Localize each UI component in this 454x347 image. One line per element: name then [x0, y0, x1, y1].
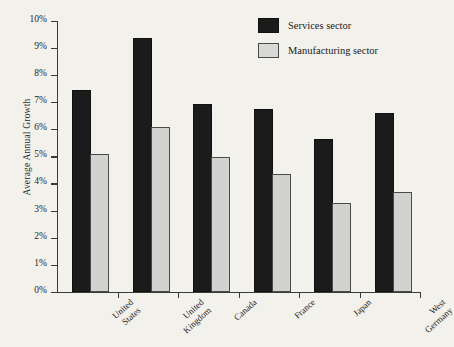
- y-axis-tick: 5%: [51, 156, 58, 157]
- y-axis-tick: 8%: [51, 75, 58, 76]
- bar-manufacturing: [393, 192, 412, 292]
- y-axis-tick: 10%: [51, 21, 58, 22]
- chart-legend: Services sectorManufacturing sector: [258, 18, 378, 68]
- y-axis-tick-label: 5%: [34, 149, 47, 159]
- y-axis-tick: 7%: [51, 102, 58, 103]
- bar-services: [375, 113, 394, 291]
- x-axis-category-label: France: [292, 297, 317, 321]
- y-axis-tick-label: 7%: [34, 95, 47, 105]
- y-axis-tick: 6%: [51, 129, 58, 130]
- bar-group: [72, 21, 108, 292]
- bar-services: [193, 104, 212, 292]
- x-axis-tick: [299, 292, 300, 298]
- y-axis-tick-label: 6%: [34, 122, 47, 132]
- x-axis-category-label: Canada: [232, 297, 259, 323]
- y-axis-tick: 9%: [51, 48, 58, 49]
- y-axis-tick-label: 3%: [34, 204, 47, 214]
- x-axis-tick: [239, 292, 240, 298]
- y-axis-tick: 2%: [51, 238, 58, 239]
- x-axis-tick: [118, 292, 119, 298]
- y-axis-tick-label: 2%: [34, 231, 47, 241]
- y-axis-tick-label: 1%: [34, 258, 47, 268]
- category-label-line: Japan: [352, 297, 374, 319]
- legend-swatch-manufacturing: [258, 43, 279, 58]
- y-axis-tick: 1%: [51, 265, 58, 266]
- legend-item: Manufacturing sector: [258, 43, 378, 58]
- y-axis-tick: 0%: [51, 292, 58, 293]
- bar-group: [193, 21, 229, 292]
- y-axis-tick-label: 4%: [34, 176, 47, 186]
- y-axis-tick: 3%: [51, 211, 58, 212]
- y-axis-tick-label: 9%: [34, 41, 47, 51]
- x-axis-tick: [420, 292, 421, 298]
- y-axis-tick-label: 0%: [34, 285, 47, 295]
- bar-group: [375, 21, 411, 292]
- bar-services: [133, 38, 152, 292]
- category-label-line: Canada: [232, 297, 259, 323]
- bar-manufacturing: [151, 127, 170, 292]
- y-axis-title: Average Annual Growth: [22, 57, 32, 237]
- x-axis-category-label: UnitedKingdom: [173, 297, 212, 335]
- bar-manufacturing: [332, 203, 351, 292]
- x-axis-tick: [360, 292, 361, 298]
- legend-swatch-services: [258, 18, 279, 33]
- x-axis-category-label: UnitedStates: [111, 297, 143, 329]
- legend-item: Services sector: [258, 18, 378, 33]
- legend-label: Manufacturing sector: [288, 45, 378, 56]
- bar-manufacturing: [90, 154, 109, 292]
- x-axis-category-label: WestGermany: [415, 297, 454, 335]
- category-label-line: France: [292, 297, 317, 321]
- bar-manufacturing: [272, 174, 291, 291]
- y-axis-line: [57, 22, 58, 293]
- y-axis-tick-label: 8%: [34, 68, 47, 78]
- bar-manufacturing: [211, 157, 230, 292]
- bar-group: [133, 21, 169, 292]
- bar-services: [314, 139, 333, 291]
- legend-label: Services sector: [288, 20, 351, 31]
- bar-services: [72, 90, 91, 291]
- x-axis-tick: [178, 292, 179, 298]
- y-axis-tick-label: 10%: [30, 14, 47, 24]
- y-axis-tick: 4%: [51, 183, 58, 184]
- x-axis-category-label: Japan: [352, 297, 374, 319]
- bar-services: [254, 109, 273, 291]
